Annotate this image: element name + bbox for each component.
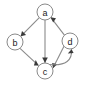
node-c: c <box>37 63 53 79</box>
edge-a-to-b <box>21 18 40 37</box>
nodes-group: a b c d <box>7 4 78 79</box>
node-a: a <box>37 4 53 20</box>
arrowhead-icon-a-to-c <box>42 58 48 64</box>
node-d: d <box>62 33 78 49</box>
arrowhead-icon-c-to-d <box>68 49 74 53</box>
arrowhead-icon-d-to-a <box>51 17 56 22</box>
node-c-label: c <box>43 67 48 77</box>
edge-b-to-c <box>20 48 39 65</box>
edge-a-to-c <box>42 20 48 63</box>
arrowhead-icon-b-to-c <box>34 60 39 66</box>
node-d-label: d <box>67 37 72 47</box>
arrowhead-icon-d-to-c <box>52 63 57 68</box>
edge-d-to-a <box>51 17 65 36</box>
graph-canvas: a b c d <box>0 0 91 87</box>
node-b-label: b <box>12 38 17 48</box>
directed-graph-figure: a b c d <box>0 0 91 87</box>
node-a-label: a <box>42 8 47 18</box>
node-b: b <box>7 34 23 50</box>
